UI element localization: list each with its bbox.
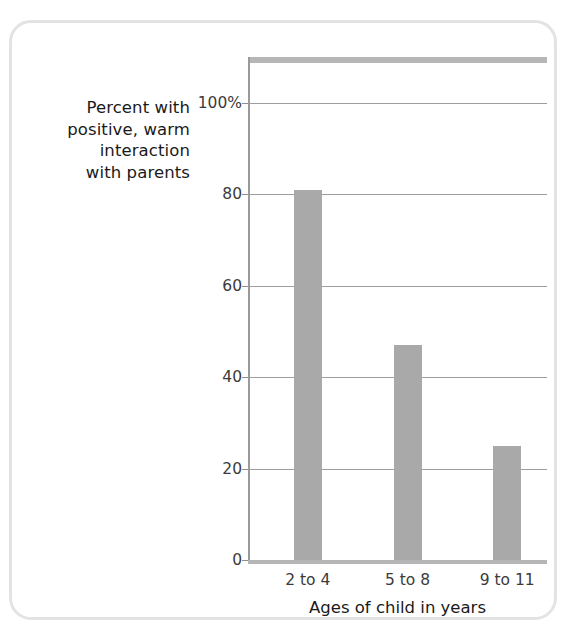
x-axis-tick-labels: 2 to 4 5 to 8 9 to 11	[248, 571, 548, 595]
y-tick-mark-100	[242, 103, 248, 104]
x-axis-line	[248, 560, 547, 564]
y-axis-title: Percent with positive, warm interaction …	[18, 97, 190, 183]
y-tick-label-80: 80	[178, 185, 242, 203]
y-tick-mark-40	[242, 377, 248, 378]
y-tick-mark-20	[242, 469, 248, 470]
bar-9-to-11	[493, 446, 521, 560]
y-tick-label-0: 0	[178, 551, 242, 569]
x-axis-title: Ages of child in years	[248, 598, 547, 617]
y-tick-label-40: 40	[178, 368, 242, 386]
x-tick-label-1: 5 to 8	[385, 571, 430, 589]
y-tick-mark-60	[242, 286, 248, 287]
bar-5-to-8	[394, 345, 422, 560]
gridline-100	[250, 103, 547, 104]
x-tick-label-2: 9 to 11	[480, 571, 535, 589]
y-axis-line	[248, 57, 250, 563]
y-axis-title-line-2: positive, warm	[18, 119, 190, 141]
y-tick-mark-0	[242, 560, 248, 561]
y-axis-tick-labels: 100% 80 60 40 20 0	[182, 57, 242, 567]
chart-figure: Percent with positive, warm interaction …	[0, 0, 585, 638]
plot-top-band	[248, 57, 547, 63]
y-tick-label-20: 20	[178, 460, 242, 478]
y-tick-label-60: 60	[178, 277, 242, 295]
y-tick-mark-80	[242, 194, 248, 195]
y-tick-label-100: 100%	[178, 94, 242, 112]
plot-area	[248, 57, 547, 563]
y-axis-title-line-3: interaction	[18, 140, 190, 162]
y-axis-title-line-4: with parents	[18, 162, 190, 184]
bar-2-to-4	[294, 190, 322, 560]
x-tick-label-0: 2 to 4	[285, 571, 330, 589]
y-axis-title-line-1: Percent with	[18, 97, 190, 119]
